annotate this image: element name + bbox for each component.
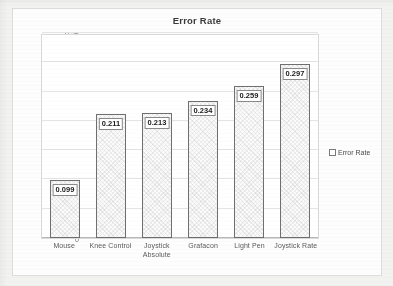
x-axis-category-label: JoystickAbsolute: [134, 241, 180, 260]
bar-data-label: 0.259: [237, 90, 262, 102]
category-label-line: Mouse: [41, 241, 87, 250]
x-axis-category-label: Grafacon: [180, 241, 226, 250]
bar-data-label: 0.234: [191, 105, 216, 117]
x-axis-category-label: Mouse: [41, 241, 87, 250]
x-axis-category-labels: MouseKnee ControlJoystickAbsoluteGrafaco…: [41, 241, 319, 260]
legend-entry-label: Error Rate: [338, 149, 370, 156]
gridline: [42, 32, 318, 33]
bar-slot: 0.259: [226, 35, 272, 238]
chart-frame[interactable]: Error Rate 00.050.10.150.20.250.30.35 0.…: [12, 8, 382, 276]
bar-slot: 0.213: [134, 35, 180, 238]
category-label-line: Knee Control: [87, 241, 133, 250]
bar[interactable]: 0.099: [50, 180, 80, 238]
chart-title: Error Rate: [13, 15, 381, 26]
category-label-line: Light Pen: [226, 241, 272, 250]
bar-data-label: 0.099: [53, 184, 78, 196]
bar-data-label: 0.297: [283, 68, 308, 80]
x-axis-category-label: Joystick Rate: [273, 241, 319, 250]
bar-slot: 0.211: [88, 35, 134, 238]
bar-slot: 0.099: [42, 35, 88, 238]
bar[interactable]: 0.297: [280, 64, 310, 238]
legend-swatch-icon: [329, 149, 336, 156]
x-axis-category-label: Light Pen: [226, 241, 272, 250]
chart-legend[interactable]: Error Rate: [329, 149, 370, 156]
category-label-line: Absolute: [134, 250, 180, 259]
bar-slot: 0.234: [180, 35, 226, 238]
category-label-line: Grafacon: [180, 241, 226, 250]
bar-series: 0.0990.2110.2130.2340.2590.297: [42, 35, 318, 238]
x-axis-category-label: Knee Control: [87, 241, 133, 250]
category-label-line: Joystick Rate: [273, 241, 319, 250]
bar[interactable]: 0.211: [96, 114, 126, 238]
plot-area[interactable]: 0.0990.2110.2130.2340.2590.297: [41, 34, 319, 239]
bar[interactable]: 0.234: [188, 101, 218, 238]
bar[interactable]: 0.259: [234, 86, 264, 238]
category-label-line: Joystick: [134, 241, 180, 250]
bar-slot: 0.297: [272, 35, 318, 238]
bar-data-label: 0.213: [145, 117, 170, 129]
bar-data-label: 0.211: [99, 118, 123, 130]
bar[interactable]: 0.213: [142, 113, 172, 238]
